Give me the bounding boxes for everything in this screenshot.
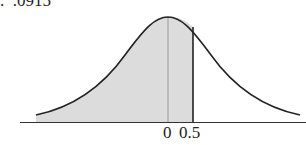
tick-label-0-5: 0.5 [179,123,200,143]
tick-label-0: 0 [163,123,172,143]
normal-curve-diagram [0,0,306,145]
